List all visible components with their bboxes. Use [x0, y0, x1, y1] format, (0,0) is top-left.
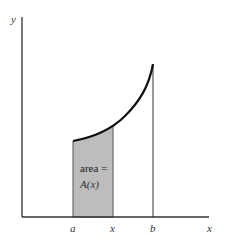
x-axis-label: x — [206, 222, 212, 234]
tick-label-b: b — [150, 222, 156, 234]
area-label-line2: A(x) — [79, 178, 99, 191]
area-function-diagram: y x a x b area = A(x) — [0, 0, 227, 252]
y-axis-label: y — [10, 13, 16, 25]
tick-label-x: x — [109, 222, 115, 234]
tick-label-a: a — [70, 222, 76, 234]
area-label-line1: area = — [80, 162, 107, 174]
